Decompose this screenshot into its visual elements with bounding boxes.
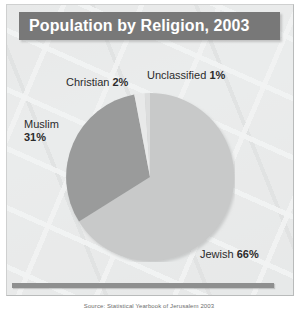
pie-label-jewish-value: 66% — [237, 248, 259, 260]
pie-label-muslim-name: Muslim — [24, 118, 59, 130]
pie-label-unclassified-name: Unclassified — [147, 69, 206, 81]
pie-label-muslim: Muslim 31% — [24, 118, 59, 144]
chart-title-banner: Population by Religion, 2003 — [19, 12, 280, 40]
pie-label-unclassified: Unclassified 1% — [147, 69, 225, 82]
pie-label-muslim-value: 31% — [24, 131, 46, 143]
page-title: Population by Religion, 2003 — [19, 17, 250, 35]
bottom-divider-rule — [12, 283, 274, 288]
source-note: Source: Statistical Yearbook of Jerusale… — [0, 303, 298, 309]
pie-chart-svg — [65, 92, 235, 262]
pie-label-christian: Christian 2% — [66, 76, 128, 89]
pie-label-jewish-name: Jewish — [200, 248, 234, 260]
pie-label-christian-value: 2% — [112, 76, 128, 88]
pie-chart — [65, 92, 235, 262]
pie-label-unclassified-value: 1% — [209, 69, 225, 81]
population-by-religion-figure: Population by Religion, 2003 Christian — [0, 0, 298, 317]
pie-label-christian-name: Christian — [66, 76, 109, 88]
pie-label-jewish: Jewish 66% — [200, 248, 259, 261]
